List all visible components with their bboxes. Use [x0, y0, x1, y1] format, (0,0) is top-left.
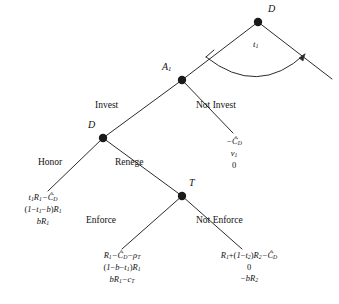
- node-dot-t: [178, 192, 186, 200]
- node-dot-d2: [99, 134, 107, 142]
- node-label-a1-sub: 1: [168, 65, 171, 72]
- node-label-root-text: D: [268, 3, 275, 14]
- node-dot-a1: [178, 76, 186, 84]
- branch-label-not-enforce: Not Enforce: [196, 216, 243, 226]
- payoff-honor-line-1: t1R1−ĈD: [4, 192, 82, 204]
- edge-root-to-a1: [182, 22, 258, 80]
- node-label-t-text: T: [189, 177, 195, 188]
- arc-label-sub: 1: [256, 43, 259, 49]
- payoff-not-invest-line-2: v1: [206, 148, 262, 160]
- payoff-not-enforce: R1+(1−t2)R2−ĈD 0 −bR2: [188, 250, 310, 285]
- payoff-honor-line-2: (1−t1−b)R1: [4, 204, 82, 216]
- node-label-d2: D: [88, 120, 95, 131]
- branch-label-enforce: Enforce: [86, 216, 116, 226]
- branch-label-honor: Honor: [38, 158, 62, 168]
- payoff-enforce-line-3: bR1−cT: [76, 274, 168, 286]
- arc-label: t1: [253, 40, 259, 50]
- payoff-enforce: R1−ĈD−ρT (1−b−t1)R1 bR1−cT: [76, 250, 168, 285]
- node-dot-root: [254, 18, 262, 26]
- payoff-not-enforce-line-3: −bR2: [188, 273, 310, 285]
- branch-label-not-invest: Not Invest: [196, 101, 236, 111]
- payoff-honor: t1R1−ĈD (1−t1−b)R1 bR1: [4, 192, 82, 227]
- payoff-not-invest: −ĈD v1 0: [206, 136, 262, 171]
- node-label-t: T: [189, 178, 195, 189]
- arc-arrowhead: [299, 54, 305, 61]
- edge-root-right-outgoing: [258, 22, 332, 79]
- game-tree-figure: D A1 D T t1 Invest Not Invest Honor Rene…: [0, 0, 339, 304]
- branch-label-renege: Renege: [115, 158, 144, 168]
- node-label-a1: A1: [162, 62, 172, 73]
- payoff-honor-line-3: bR1: [4, 216, 82, 228]
- node-label-d2-text: D: [88, 119, 95, 130]
- node-label-root: D: [268, 4, 275, 15]
- payoff-not-enforce-line-2: 0: [188, 262, 310, 273]
- edge-t-enforce: [122, 196, 182, 249]
- payoff-not-invest-line-3: 0: [206, 160, 262, 171]
- information-set-arc: [206, 54, 305, 77]
- branch-label-invest: Invest: [95, 101, 118, 111]
- payoff-not-invest-line-1: −ĈD: [206, 136, 262, 148]
- payoff-enforce-line-2: (1−b−t1)R1: [76, 262, 168, 274]
- payoff-not-enforce-line-1: R1+(1−t2)R2−ĈD: [188, 250, 310, 262]
- payoff-enforce-line-1: R1−ĈD−ρT: [76, 250, 168, 262]
